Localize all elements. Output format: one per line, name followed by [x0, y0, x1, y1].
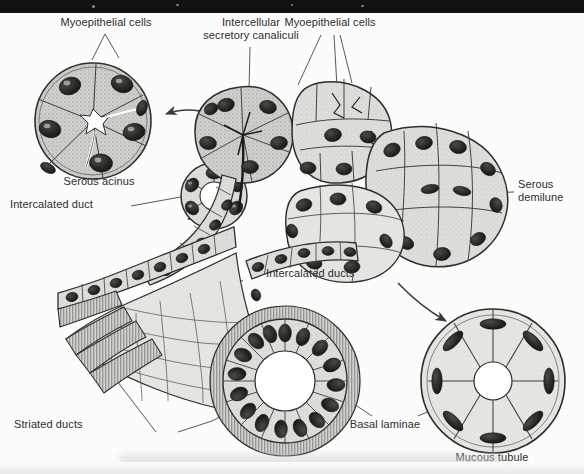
- figure-svg: [0, 13, 584, 474]
- label-myoepithelial-cells-left: Myoepithelial cells: [48, 16, 164, 29]
- scan-header-bar: [0, 0, 584, 13]
- scan-footer-band: [0, 462, 584, 474]
- figure-page: Myoepithelial cells Intercellular secret…: [0, 0, 584, 474]
- mucous-tubule-inset: [421, 309, 565, 453]
- label-basal-laminae: Basal laminae: [337, 418, 433, 431]
- serous-acinus-inset: [35, 63, 151, 179]
- salivary-gland-illustration: Myoepithelial cells Intercellular secret…: [0, 13, 584, 474]
- label-striated-ducts: Striated ducts: [14, 418, 124, 431]
- label-myoepithelial-cells-right: Myoepithelial cells: [272, 16, 388, 29]
- label-intercalated-ducts: Intercalated ducts: [266, 267, 386, 280]
- striated-duct-inset: [210, 306, 360, 456]
- label-serous-acinus: Serous acinus: [41, 175, 157, 188]
- label-intercalated-duct: Intercalated duct: [10, 198, 134, 211]
- label-serous-demilune: Serous demilune: [518, 178, 582, 204]
